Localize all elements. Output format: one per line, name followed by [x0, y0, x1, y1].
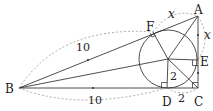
label-e: E: [200, 55, 209, 69]
label-b: B: [5, 82, 14, 96]
label-c: C: [194, 95, 203, 109]
label-d: D: [162, 95, 172, 109]
length-af: x: [168, 7, 175, 21]
tick-ec: [197, 72, 199, 74]
tick-bf: [87, 59, 89, 61]
length-bf: 10: [76, 41, 90, 54]
length-ae: x: [204, 28, 211, 42]
length-od: 2: [170, 70, 177, 83]
arc-af: [153, 13, 198, 32]
length-bd: 10: [88, 94, 102, 107]
geometry-diagram: A B C D E F 10 10 x x 2 2: [0, 0, 213, 111]
length-dc: 2: [178, 92, 185, 105]
radius-od: [167, 59, 168, 88]
segment-bo: [19, 59, 168, 88]
tick-ae: [197, 34, 199, 36]
tick-bd: [92, 87, 94, 89]
label-a: A: [193, 3, 203, 17]
label-f: F: [146, 20, 154, 34]
radius-oe: [168, 59, 198, 60]
radius-of: [153, 32, 168, 59]
